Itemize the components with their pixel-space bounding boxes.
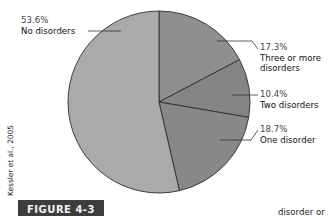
slice-percent: 18.7% [260, 124, 315, 135]
slice-percent: 53.6% [21, 15, 75, 26]
slice-category: No disorders [21, 26, 75, 37]
cropped-body-text: disorder or [278, 207, 325, 216]
figure-label: FIGURE 4-3 [18, 200, 104, 216]
label-no-disorders: 53.6% No disorders [21, 15, 75, 36]
slice-category: Three or more [260, 53, 321, 64]
pie-slices [68, 11, 250, 193]
slice-percent: 17.3% [260, 42, 321, 53]
slice-category: Two disorders [260, 100, 319, 111]
slice-percent: 10.4% [260, 89, 319, 100]
slice-category-cont: disorders [260, 63, 321, 74]
label-one-disorder: 18.7% One disorder [260, 124, 315, 145]
slice-category: One disorder [260, 135, 315, 146]
label-three-or-more: 17.3% Three or more disorders [260, 42, 321, 74]
label-two-disorders: 10.4% Two disorders [260, 89, 319, 110]
source-credit: Kessler et al., 2005 [6, 125, 15, 196]
